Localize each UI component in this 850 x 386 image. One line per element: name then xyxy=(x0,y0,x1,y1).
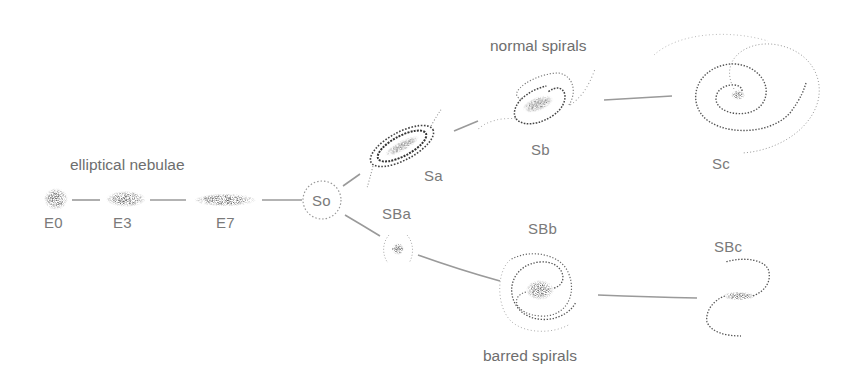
edge-Sb-Sc xyxy=(604,96,672,100)
node-label-Sc: Sc xyxy=(712,155,730,172)
galaxy-E7-icon xyxy=(194,194,256,207)
tuning-fork-diagram: elliptical nebulae normal spirals barred… xyxy=(0,0,850,386)
node-label-Sb: Sb xyxy=(531,141,550,158)
barred-spirals-group-label: barred spirals xyxy=(483,347,577,365)
node-label-E0: E0 xyxy=(44,214,63,231)
edge-So-SBa xyxy=(345,215,380,236)
normal-spirals-group-label: normal spirals xyxy=(490,37,586,55)
node-label-SBc: SBc xyxy=(714,238,742,255)
node-label-Sa: Sa xyxy=(424,167,443,184)
edge-SBa-SBb xyxy=(418,255,500,281)
node-label-SBa: SBa xyxy=(382,205,411,222)
edge-So-Sa xyxy=(343,174,360,186)
galaxy-Sb-icon xyxy=(467,58,606,143)
galaxy-SBc-icon xyxy=(707,259,770,336)
node-label-So: So xyxy=(312,192,331,209)
galaxy-Sc-icon xyxy=(654,34,819,153)
elliptical-galaxies xyxy=(44,188,256,210)
node-label-E7: E7 xyxy=(216,214,235,231)
galaxy-SBa-icon xyxy=(384,235,413,263)
galaxy-E3-icon xyxy=(106,191,146,207)
node-label-SBb: SBb xyxy=(528,220,557,237)
elliptical-group-label: elliptical nebulae xyxy=(70,156,185,174)
connector-lines xyxy=(72,96,697,298)
node-label-E3: E3 xyxy=(113,214,132,231)
galaxy-SBb-icon xyxy=(500,254,576,332)
diagram-canvas xyxy=(0,0,850,386)
galaxy-E0-icon xyxy=(44,188,68,210)
edge-Sa-Sb xyxy=(454,121,478,131)
edge-SBb-SBc xyxy=(598,295,697,298)
